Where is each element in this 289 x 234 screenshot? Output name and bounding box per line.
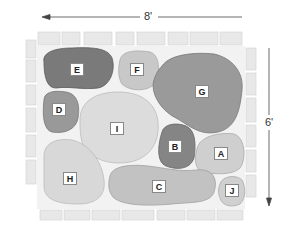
- stone-label-D: D: [52, 103, 66, 116]
- stone-label-H: H: [63, 172, 77, 185]
- stone-label-C: C: [152, 180, 166, 193]
- stone-label-I: I: [110, 122, 124, 135]
- width-label: 8': [142, 10, 154, 22]
- stone-label-B: B: [168, 140, 182, 153]
- stone-label-E: E: [70, 63, 84, 76]
- height-label: 6': [263, 116, 275, 128]
- stone-label-G: G: [195, 85, 209, 98]
- stone-label-A: A: [214, 147, 228, 160]
- stone-label-J: J: [225, 184, 239, 197]
- patio-diagram: [0, 0, 289, 234]
- stone-label-F: F: [130, 63, 144, 76]
